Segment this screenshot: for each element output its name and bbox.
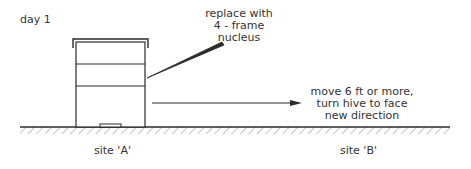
ground [20, 127, 450, 134]
hive-entrance [100, 124, 121, 127]
site-a-label: site 'A' [94, 145, 131, 157]
hive-callout: replace with 4 - frame nucleus [186, 8, 292, 44]
arrow-head-icon [290, 100, 302, 106]
ground-hatching [20, 127, 450, 134]
day-label: day 1 [20, 14, 51, 26]
site-b-label: site 'B' [340, 145, 377, 157]
hive-body [76, 42, 145, 127]
beehive [73, 39, 148, 127]
callout-pointer [147, 42, 224, 78]
move-callout-line-3: new direction [302, 110, 422, 122]
move-arrow [152, 100, 302, 106]
hive-callout-line-3: nucleus [186, 32, 292, 44]
move-callout: move 6 ft or more, turn hive to face new… [302, 86, 422, 122]
